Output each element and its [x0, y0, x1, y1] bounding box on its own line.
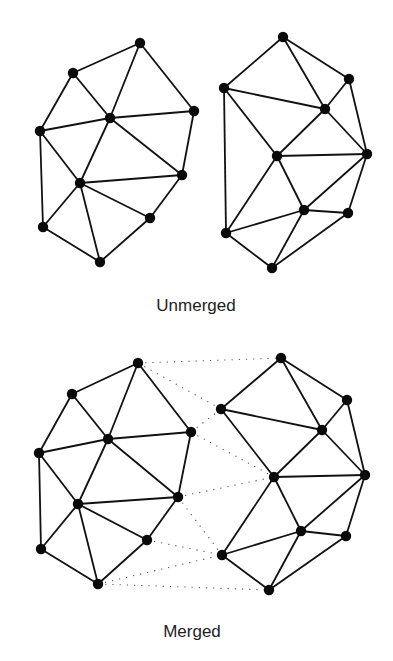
node-mr-d — [317, 425, 327, 435]
merge-edge-Ji — [98, 555, 222, 584]
edge-mr-fi — [222, 477, 274, 555]
edge-ur-ij — [226, 233, 272, 268]
edge-ul-EI — [40, 131, 43, 227]
merge-edge-Df — [191, 432, 274, 477]
edge-mr-gh — [301, 531, 346, 536]
node-ml-H — [142, 535, 152, 545]
edge-ur-fg — [277, 156, 304, 210]
edge-ml-IJ — [41, 549, 98, 584]
edge-mr-ij — [222, 555, 269, 590]
merge-edge-Jj — [98, 584, 269, 590]
edge-mr-de — [322, 430, 365, 475]
edge-ur-be — [349, 79, 367, 154]
node-ml-B — [67, 389, 77, 399]
node-ur-j — [267, 263, 277, 273]
edge-ul-CF — [80, 118, 110, 183]
edge-ur-ad — [283, 37, 325, 109]
node-ul-F — [75, 178, 85, 188]
edge-ul-CG — [110, 118, 182, 175]
edge-ml-CG — [108, 439, 178, 497]
node-mr-b — [342, 395, 352, 405]
node-ul-E — [35, 126, 45, 136]
edge-ul-FH — [80, 183, 150, 218]
edge-ur-fe — [277, 154, 367, 156]
node-mr-f — [269, 472, 279, 482]
edge-ur-df — [277, 109, 325, 156]
edge-ur-gh — [304, 210, 348, 213]
node-ur-g — [299, 205, 309, 215]
node-ml-D — [186, 427, 196, 437]
node-ur-d — [320, 104, 330, 114]
edge-ul-AD — [140, 43, 194, 111]
merge-edge-Gi — [178, 497, 222, 555]
node-ur-a — [278, 32, 288, 42]
node-mr-e — [360, 470, 370, 480]
edge-ur-ac — [224, 37, 283, 88]
node-ul-A — [135, 38, 145, 48]
node-ul-I — [38, 222, 48, 232]
edge-ul-DG — [182, 111, 194, 175]
edge-mr-be — [347, 400, 365, 475]
unmerged-diagram — [35, 32, 372, 273]
edge-mr-ab — [281, 358, 347, 400]
node-ml-I — [36, 544, 46, 554]
edge-ml-EI — [39, 453, 41, 549]
triangulation-diagram — [0, 0, 393, 661]
edge-mr-ad — [281, 358, 322, 430]
edge-ur-fi — [226, 156, 277, 233]
node-ur-b — [344, 74, 354, 84]
edge-ul-FI — [43, 183, 80, 227]
node-ml-J — [93, 579, 103, 589]
edge-ul-FG — [80, 175, 182, 183]
node-ur-c — [219, 83, 229, 93]
edge-ml-BE — [39, 394, 72, 453]
node-ml-C — [103, 434, 113, 444]
edge-ul-GH — [150, 175, 182, 218]
edge-ur-ab — [283, 37, 349, 79]
merge-edge-Hi — [147, 540, 222, 555]
edge-ul-BE — [40, 73, 73, 131]
edge-ul-CD — [110, 111, 194, 118]
node-ml-F — [73, 499, 83, 509]
node-ul-H — [145, 213, 155, 223]
node-mr-c — [216, 404, 226, 414]
edge-ml-CF — [78, 439, 108, 504]
edge-ml-CD — [108, 432, 191, 439]
edge-mr-bd — [322, 400, 347, 430]
merge-edge-Ac — [138, 363, 221, 409]
edge-ml-FH — [78, 504, 147, 540]
edge-ul-BC — [73, 73, 110, 118]
node-mr-j — [264, 585, 274, 595]
edge-ul-EF — [40, 131, 80, 183]
node-ml-G — [173, 492, 183, 502]
edge-ur-cd — [224, 88, 325, 109]
edge-mr-hj — [269, 536, 346, 590]
edge-mr-cd — [221, 409, 322, 430]
edge-ul-FJ — [80, 183, 100, 262]
edge-ml-GH — [147, 497, 178, 540]
caption-unmerged: Unmerged — [96, 296, 296, 316]
edge-ml-EF — [39, 453, 78, 504]
merged-diagram — [34, 353, 370, 595]
node-ul-B — [68, 68, 78, 78]
edge-mr-fe — [274, 475, 365, 477]
edge-ul-HJ — [100, 218, 150, 262]
edge-ur-ci — [224, 88, 226, 233]
edge-mr-ac — [221, 358, 281, 409]
edge-ml-FJ — [78, 504, 98, 584]
node-ul-G — [177, 170, 187, 180]
node-mr-i — [217, 550, 227, 560]
node-ml-E — [34, 448, 44, 458]
node-ul-J — [95, 257, 105, 267]
edge-ur-hj — [272, 213, 348, 268]
node-ur-f — [272, 151, 282, 161]
node-ur-e — [362, 149, 372, 159]
node-mr-h — [341, 531, 351, 541]
edge-ml-AD — [138, 363, 191, 432]
edge-ml-FI — [41, 504, 78, 549]
merge-edge-Dc — [191, 409, 221, 432]
caption-merged: Merged — [92, 622, 292, 642]
merge-edge-Aa — [138, 358, 281, 363]
node-ul-D — [189, 106, 199, 116]
edge-mr-df — [274, 430, 322, 477]
